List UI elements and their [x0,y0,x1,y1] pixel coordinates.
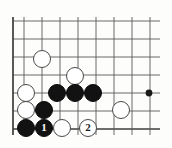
numbered-stone-white-2[interactable]: 2 [79,119,98,138]
stone-move-number: 2 [80,120,97,137]
star-point-icon [146,90,153,97]
stone-move-number: 1 [36,120,53,137]
go-diagram-root: 12 [0,0,172,148]
numbered-stone-black-1[interactable]: 1 [35,119,54,138]
